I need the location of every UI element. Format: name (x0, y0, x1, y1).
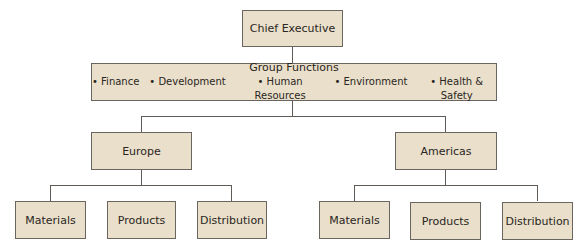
connector-regions-horizontal (141, 116, 446, 117)
connector-americas-horizontal (354, 185, 538, 186)
node-americas: Americas (395, 132, 497, 170)
node-label: Materials (329, 214, 379, 227)
connector-europe-materials (50, 185, 51, 201)
node-europe-materials: Materials (15, 201, 86, 239)
node-americas-distribution: Distribution (502, 202, 573, 240)
connector-europe-distribution (231, 185, 232, 201)
function-development: Development (149, 75, 225, 103)
node-label: Americas (420, 145, 471, 158)
node-label: Distribution (200, 214, 264, 227)
connector-americas-down (445, 170, 446, 185)
function-health-safety: Health & Safety (417, 75, 496, 103)
node-label: Chief Executive (250, 22, 335, 35)
group-functions-list: Finance Development Human Resources Envi… (92, 75, 496, 103)
node-label: Europe (122, 145, 161, 158)
node-americas-products: Products (410, 202, 481, 240)
node-europe: Europe (91, 132, 192, 170)
connector-europe-down (141, 170, 142, 185)
connector-americas-distribution (537, 185, 538, 201)
connector-to-europe (141, 116, 142, 132)
function-environment: Environment (334, 75, 407, 103)
group-functions-title: Group Functions (249, 61, 339, 75)
connector-americas-materials (354, 185, 355, 201)
connector-to-americas (445, 116, 446, 132)
node-label: Products (422, 215, 470, 228)
node-group-functions: Group Functions Finance Development Huma… (91, 63, 497, 101)
connector-europe-horizontal (50, 185, 232, 186)
node-americas-materials: Materials (319, 201, 390, 239)
function-human-resources: Human Resources (236, 75, 325, 103)
node-europe-products: Products (107, 201, 176, 239)
node-label: Materials (25, 214, 75, 227)
node-label: Products (118, 214, 166, 227)
connector-group-down (292, 101, 293, 117)
node-europe-distribution: Distribution (197, 201, 267, 239)
function-finance: Finance (92, 75, 139, 103)
node-chief-executive: Chief Executive (242, 10, 343, 47)
node-label: Distribution (505, 215, 569, 228)
